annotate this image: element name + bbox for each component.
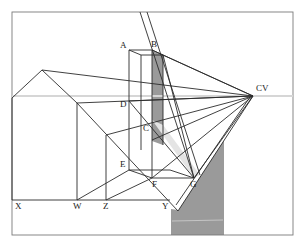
back-top-to-cv [163, 55, 253, 96]
label-e: E [120, 159, 126, 169]
label-b: B [151, 39, 157, 49]
z-to-f [106, 178, 152, 200]
label-cv: CV [256, 83, 269, 93]
label-d: D [120, 99, 127, 109]
box-bottom [129, 170, 194, 178]
label-x: X [15, 201, 22, 211]
box-light-face [152, 120, 200, 178]
label-a: A [120, 40, 127, 50]
label-z: Z [103, 201, 109, 211]
label-f: F [152, 179, 157, 189]
label-c: C [143, 123, 149, 133]
label-w: W [73, 201, 82, 211]
label-y: Y [162, 201, 169, 211]
roof-outline [12, 70, 77, 103]
label-g: G [190, 179, 197, 189]
roof-ridge-to-cv [42, 70, 253, 96]
perspective-diagram: A B C D E F G CV X W Z Y [0, 0, 300, 241]
w-to-e [77, 170, 129, 200]
